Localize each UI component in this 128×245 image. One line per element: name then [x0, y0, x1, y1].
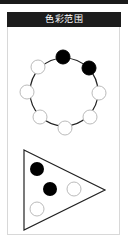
ring-dot-lower-left-empty[interactable] [33, 110, 47, 124]
triangle-dots [30, 162, 81, 216]
triangle-dot-center-filled[interactable] [43, 182, 57, 196]
ring-dot-bottom-empty[interactable] [58, 121, 72, 135]
ring-dot-top-filled[interactable] [56, 50, 70, 64]
triangle-dot-bottom-left-empty[interactable] [30, 202, 44, 216]
triangle-dot-top-left-filled[interactable] [30, 162, 44, 176]
ring-dot-upper-left-empty[interactable] [31, 60, 45, 74]
ring-dot-lower-right-empty[interactable] [83, 110, 97, 124]
ring-dot-upper-right-filled[interactable] [82, 61, 96, 75]
ring-dot-left-empty[interactable] [20, 85, 34, 99]
triangle-outline [24, 150, 105, 230]
color-range-diagram [0, 0, 128, 245]
triangle-dot-right-empty[interactable] [67, 182, 81, 196]
ring-dot-right-empty[interactable] [92, 86, 106, 100]
ring-dots [20, 50, 106, 135]
